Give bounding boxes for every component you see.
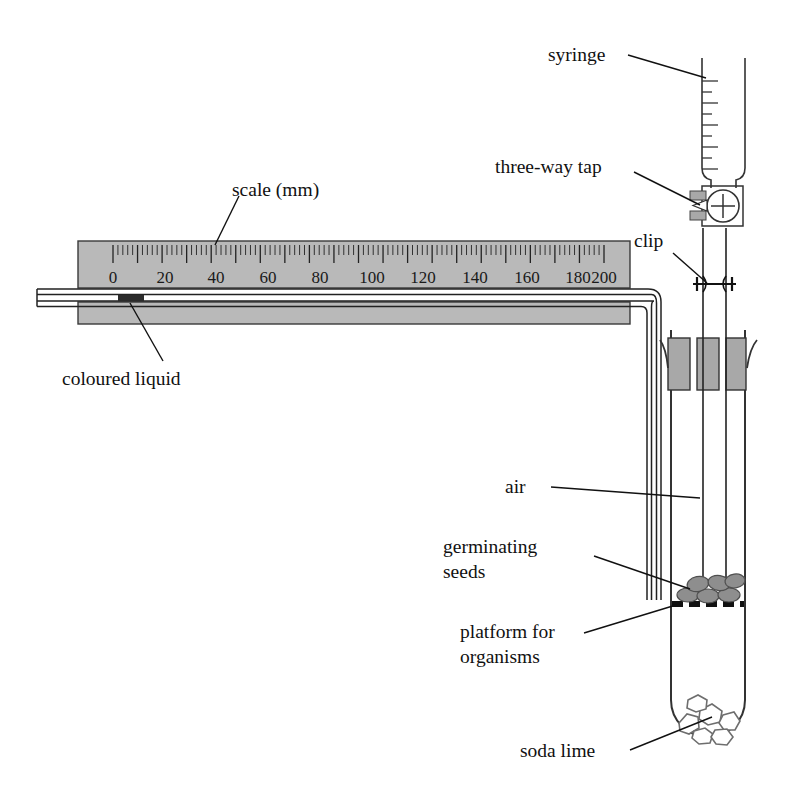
leader-three-way-tap — [634, 172, 700, 205]
tick-label-140: 140 — [462, 268, 488, 287]
syringe-barrel-right-wall — [736, 58, 745, 188]
bung-flange-right — [747, 340, 757, 368]
ruler-ticks — [113, 245, 604, 263]
syringe-graduations — [702, 81, 718, 169]
capillary-inner-lower — [37, 301, 654, 600]
tap-side-arm-upper — [690, 191, 706, 200]
rubber-bung — [660, 338, 757, 390]
respirometer-diagram: 0 20 40 60 80 100 120 140 160 180 200 — [0, 0, 801, 794]
capillary-outer-bottom — [37, 307, 647, 601]
label-coloured-liquid: coloured liquid — [62, 368, 181, 389]
leader-lines — [130, 55, 712, 750]
tap-side-arm-lower — [690, 211, 706, 220]
soda-lime — [679, 695, 740, 745]
labels: syringe three-way tap clip scale (mm) co… — [62, 44, 663, 761]
tap-nose — [693, 200, 707, 211]
leader-air — [551, 487, 700, 498]
leader-clip — [673, 253, 707, 283]
tick-label-60: 60 — [260, 268, 277, 287]
test-tube — [671, 330, 745, 737]
ruler-scale: 0 20 40 60 80 100 120 140 160 180 200 — [78, 241, 630, 324]
label-scale: scale (mm) — [232, 179, 319, 201]
bung-right-block — [726, 338, 746, 390]
label-air: air — [505, 476, 526, 497]
coloured-liquid-plug — [118, 295, 144, 301]
capillary-inner-upper — [37, 295, 657, 601]
soda-lime-chunk — [719, 712, 740, 730]
capillary-tube — [37, 289, 661, 600]
tick-label-20: 20 — [157, 268, 174, 287]
tick-label-80: 80 — [312, 268, 329, 287]
capillary-outer-top — [37, 289, 661, 600]
label-soda-lime: soda lime — [520, 740, 595, 761]
tick-label-0: 0 — [109, 268, 118, 287]
leader-germinating-seeds — [594, 556, 690, 589]
syringe — [702, 58, 745, 188]
leader-platform — [584, 605, 676, 633]
tick-label-160: 160 — [514, 268, 540, 287]
tick-label-40: 40 — [208, 268, 225, 287]
soda-lime-chunk — [711, 729, 733, 745]
three-way-tap — [690, 186, 743, 226]
ruler-lower-body — [78, 302, 630, 324]
label-platform-line2: organisms — [460, 646, 540, 667]
label-clip: clip — [634, 230, 663, 251]
leader-scale — [215, 196, 239, 245]
test-tube-outline — [671, 330, 745, 737]
label-germinating-seeds-line2: seeds — [443, 561, 485, 582]
clip — [693, 276, 736, 292]
bung-left-block — [668, 338, 690, 390]
soda-lime-chunk — [687, 695, 707, 712]
tick-label-100: 100 — [359, 268, 385, 287]
bung-middle-block — [697, 338, 719, 390]
label-three-way-tap: three-way tap — [495, 156, 602, 177]
tick-label-180: 180 — [565, 268, 591, 287]
leader-syringe — [628, 55, 706, 78]
tick-label-120: 120 — [410, 268, 436, 287]
soda-lime-chunk — [692, 728, 713, 744]
label-syringe: syringe — [548, 44, 605, 65]
label-platform-line1: platform for — [460, 621, 555, 642]
tick-label-200: 200 — [591, 268, 617, 287]
label-germinating-seeds-line1: germinating — [443, 536, 537, 557]
